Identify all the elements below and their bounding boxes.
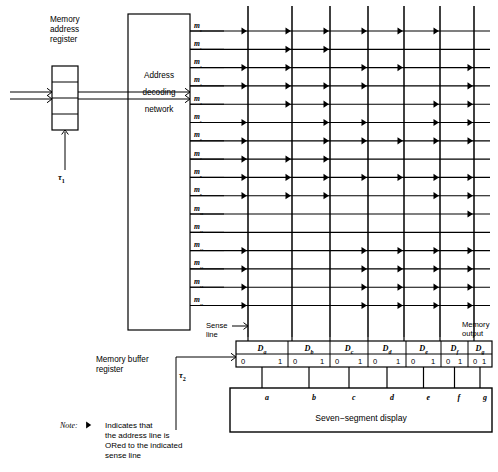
diode-marker-icon: [434, 119, 439, 126]
note-marker-icon: [86, 422, 91, 429]
diode-marker-icon: [468, 265, 473, 272]
mbr-cell-zero: 0: [473, 357, 477, 366]
mbr-cell-one: 1: [482, 357, 486, 366]
diode-marker-icon: [242, 174, 247, 181]
memory-buffer-register-label: register: [96, 365, 124, 374]
memory-buffer-register-label: Memory buffer: [96, 355, 149, 364]
diode-marker-icon: [434, 101, 439, 108]
diode-marker-icon: [468, 210, 473, 217]
mbr-cell-one: 1: [278, 357, 282, 366]
diode-marker-icon: [468, 82, 473, 89]
word-line-label: m₁₁: [194, 222, 204, 233]
word-line-label: m₈: [194, 167, 202, 178]
mbr-cell-label: Db: [304, 344, 314, 355]
diode-marker-icon: [286, 64, 291, 71]
segment-label: c: [352, 393, 356, 402]
sense-line-annotation: Sense: [206, 321, 228, 330]
memory-output-annotation: Memory: [462, 320, 490, 329]
word-line-label: m₁₃: [194, 258, 204, 269]
diode-marker-icon: [242, 119, 247, 126]
segment-label: d: [390, 393, 395, 402]
word-line-label: m₂: [194, 57, 202, 68]
segment-label: f: [458, 393, 462, 402]
diode-marker-icon: [434, 174, 439, 181]
diode-marker-icon: [242, 82, 247, 89]
diode-marker-icon: [362, 82, 367, 89]
diode-marker-icon: [242, 302, 247, 309]
address-decoding-network-label: Address: [144, 71, 174, 80]
word-line-label: m₃: [194, 75, 202, 86]
diode-marker-icon: [362, 284, 367, 291]
diode-marker-icon: [362, 174, 367, 181]
mbr-cell-label: Dd: [382, 344, 393, 355]
tau1-label: τ1: [58, 172, 65, 184]
diode-marker-icon: [468, 302, 473, 309]
note-text: sense line: [105, 451, 142, 460]
mbr-cell-one: 1: [431, 357, 435, 366]
diode-marker-icon: [242, 284, 247, 291]
word-line-label: m₁₄: [194, 277, 204, 288]
diode-marker-icon: [434, 137, 439, 144]
word-line-label: m₀: [194, 21, 202, 32]
diode-marker-icon: [324, 27, 329, 34]
memory-address-register-label: address: [50, 25, 79, 34]
word-line-label: m₁₀: [194, 204, 204, 215]
diode-marker-icon: [398, 174, 403, 181]
diode-marker-icon: [324, 119, 329, 126]
note-text: ORed to the indicated: [105, 441, 182, 450]
diode-marker-icon: [242, 265, 247, 272]
diode-marker-icon: [362, 302, 367, 309]
word-line-label: m₁₅: [194, 295, 204, 306]
mbr-cell-label: Da: [257, 344, 267, 355]
diode-marker-icon: [324, 156, 329, 163]
diode-marker-icon: [242, 137, 247, 144]
diode-marker-icon: [324, 192, 329, 199]
memory-seven-segment-diagram: Memoryaddressregisterτ1Addressdecodingne…: [0, 0, 498, 472]
diode-marker-icon: [468, 137, 473, 144]
diode-marker-icon: [286, 156, 291, 163]
word-line-label: m₆: [194, 130, 202, 141]
word-line-label: m₁₂: [194, 240, 204, 251]
diode-marker-icon: [242, 247, 247, 254]
note-label: Note:: [59, 421, 78, 430]
diode-marker-icon: [242, 27, 247, 34]
word-line-label: m₉: [194, 185, 202, 196]
address-decoding-network-label: network: [145, 105, 175, 114]
diode-marker-icon: [398, 284, 403, 291]
diode-marker-icon: [324, 174, 329, 181]
segment-label: g: [482, 393, 487, 402]
diode-marker-icon: [398, 265, 403, 272]
diode-marker-icon: [242, 192, 247, 199]
diode-marker-icon: [468, 247, 473, 254]
mbr-cell-label: Dg: [475, 344, 485, 355]
diode-marker-icon: [324, 137, 329, 144]
note-text: the address line is: [105, 431, 169, 440]
mbr-cell-one: 1: [320, 357, 324, 366]
diode-marker-icon: [468, 101, 473, 108]
mbr-cell-label: Dc: [344, 344, 354, 355]
diode-marker-icon: [362, 137, 367, 144]
mbr-cell-zero: 0: [373, 357, 377, 366]
diode-marker-icon: [286, 101, 291, 108]
figure-canvas: Memoryaddressregisterτ1Addressdecodingne…: [0, 0, 498, 472]
diode-marker-icon: [398, 137, 403, 144]
mbr-cell-zero: 0: [293, 357, 297, 366]
seven-segment-display-label: Seven−segment display: [315, 413, 407, 423]
diode-marker-icon: [468, 284, 473, 291]
diode-marker-icon: [324, 82, 329, 89]
mbr-cell-label: De: [418, 344, 428, 355]
diode-marker-icon: [286, 27, 291, 34]
word-line-label: m₅: [194, 112, 202, 123]
diode-marker-icon: [398, 64, 403, 71]
mbr-cell-zero: 0: [411, 357, 415, 366]
segment-label: b: [312, 393, 316, 402]
mbr-cell-zero: 0: [241, 357, 245, 366]
address-decoding-network-label: decoding: [142, 88, 176, 97]
diode-marker-icon: [242, 156, 247, 163]
mbr-cell-zero: 0: [335, 357, 339, 366]
word-line-label: m₄: [194, 94, 202, 105]
diode-marker-icon: [468, 192, 473, 199]
diode-marker-icon: [468, 174, 473, 181]
word-line-label: m₁: [194, 39, 202, 50]
address-decoding-network: [128, 14, 190, 330]
